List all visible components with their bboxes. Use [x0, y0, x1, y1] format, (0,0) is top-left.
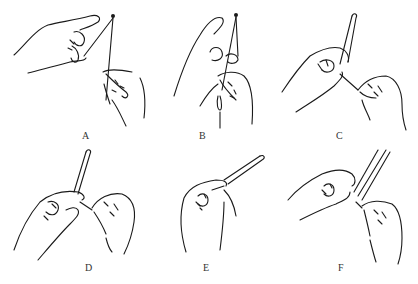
figure-canvas: A B	[0, 0, 418, 284]
panel-c: C	[278, 0, 418, 142]
panel-a: A	[0, 0, 140, 142]
panel-e: E	[140, 142, 280, 284]
panel-b: B	[140, 0, 280, 142]
panel-label-a: A	[82, 131, 89, 141]
hands-illustration-b	[140, 0, 280, 142]
panel-d: D	[0, 142, 140, 284]
hands-illustration-d	[0, 142, 140, 284]
panel-label-f: F	[338, 263, 344, 273]
hands-illustration-e	[140, 142, 280, 284]
hands-illustration-f	[278, 142, 418, 284]
panel-label-b: B	[199, 131, 206, 141]
panel-label-e: E	[203, 263, 209, 273]
panel-label-d: D	[85, 263, 92, 273]
hands-illustration-a	[0, 0, 140, 142]
panel-label-c: C	[336, 131, 343, 141]
hands-illustration-c	[278, 0, 418, 142]
panel-f: F	[278, 142, 418, 284]
